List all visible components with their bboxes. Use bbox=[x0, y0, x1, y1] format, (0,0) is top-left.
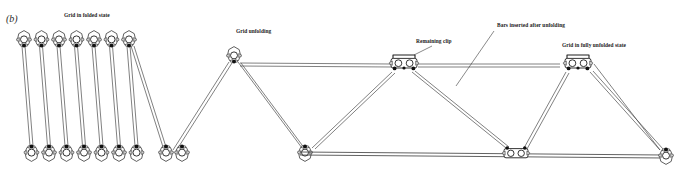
stage-grid-unfolding bbox=[159, 47, 392, 162]
stage-remaining-clip bbox=[300, 55, 664, 158]
folded-bottom-joints bbox=[24, 145, 144, 162]
figure-container: (b) Grid in folded state Grid unfolding … bbox=[0, 0, 693, 175]
bars-inserted-leader bbox=[456, 31, 494, 86]
unfolding-right-joint bbox=[298, 145, 313, 162]
lower-centre-joint bbox=[502, 146, 529, 158]
label-grid-unfolded: Grid in fully unfolded state bbox=[562, 42, 627, 48]
folded-top-joints bbox=[17, 31, 137, 48]
unfolding-apex-joint bbox=[227, 47, 242, 64]
figure-diagram: (b) Grid in folded state Grid unfolding … bbox=[0, 0, 693, 175]
unfolded-apex-joint bbox=[563, 55, 592, 70]
label-remaining-clip: Remaining clip bbox=[416, 38, 452, 44]
stage-folded-grid bbox=[17, 31, 166, 162]
label-grid-unfolding: Grid unfolding bbox=[236, 28, 272, 34]
folded-bars bbox=[22, 46, 166, 147]
retaining-clip-joint bbox=[389, 55, 418, 70]
unfolding-left-joint bbox=[159, 145, 174, 162]
remaining-clip-leader bbox=[414, 46, 432, 55]
unfolded-bars bbox=[590, 64, 663, 150]
label-grid-folded: Grid in folded state bbox=[64, 12, 110, 18]
label-bars-inserted: Bars inserted after unfolding bbox=[497, 22, 565, 28]
stage-fully-unfolded bbox=[563, 55, 673, 164]
unfolded-right-joint bbox=[659, 148, 674, 165]
unfolding-left-joint-b bbox=[175, 145, 190, 162]
panel-letter: (b) bbox=[6, 13, 18, 25]
clip-bay-bars bbox=[300, 64, 664, 158]
unfolding-bars bbox=[173, 62, 392, 151]
